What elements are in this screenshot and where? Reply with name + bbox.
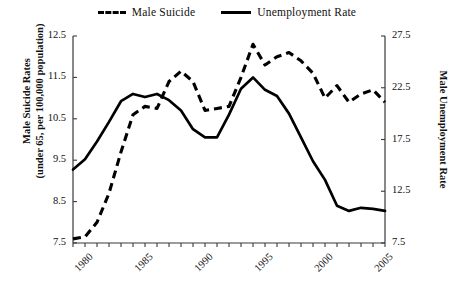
plot-area (0, 0, 454, 286)
axis-ticks (73, 36, 385, 247)
data-series (73, 44, 385, 239)
chart-figure: Male Suicide Unemployment Rate Male Suic… (0, 0, 454, 286)
series-line-male-suicide (73, 44, 385, 239)
axis-lines (73, 36, 385, 243)
series-line-unemployment-rate (73, 77, 385, 211)
